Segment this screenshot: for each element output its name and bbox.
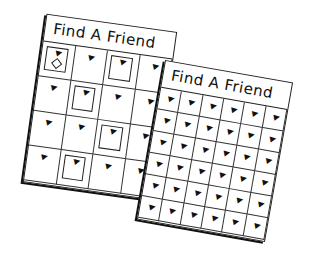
pushpin-icon: ▶ (237, 195, 245, 205)
pushpin-icon: ▶ (252, 108, 260, 118)
pushpin-icon: ▶ (177, 162, 185, 172)
pushpin-icon: ▶ (273, 112, 281, 122)
pushpin-icon: ▶ (78, 121, 86, 131)
pushpin-icon: ▶ (41, 151, 49, 161)
pushpin-icon: ▶ (269, 133, 277, 143)
pushpin-icon: ▶ (153, 180, 161, 190)
pushpin-icon: ▶ (258, 198, 266, 208)
grid-cell: ▶ (29, 111, 66, 150)
pushpin-icon: ▶ (265, 155, 273, 165)
pushpin-icon: ▶ (261, 177, 269, 187)
grid-cell: ▶ (61, 115, 98, 154)
pushpin-icon: ▶ (240, 173, 248, 183)
pushpin-icon: ▶ (223, 148, 231, 158)
pushpin-icon: ▶ (254, 220, 262, 230)
grid-cell: ▶ (56, 150, 93, 189)
sheet-right: Find A Friend ▶▶▶▶▶▶▶▶▶▶▶▶▶▶▶▶▶▶▶▶▶▶▶▶▶▶… (137, 60, 293, 242)
pushpin-icon: ▶ (105, 160, 113, 170)
pushpin-icon: ▶ (174, 184, 182, 194)
grid-cell: ▶ (71, 46, 108, 85)
pushpin-icon: ▶ (88, 52, 96, 62)
pushpin-icon: ▶ (156, 158, 164, 168)
pin-grid: ▶▶▶▶▶▶▶▶▶▶▶▶▶▶▶▶▶▶▶▶▶▶▶▶▶▶▶▶▶▶▶▶▶▶▶▶ (138, 88, 287, 240)
grid-cell: ▶ (24, 145, 61, 184)
pushpin-icon: ▶ (206, 122, 214, 132)
pushpin-icon: ▶ (198, 166, 206, 176)
pushpin-icon: ▶ (147, 96, 155, 106)
pushpin-icon: ▶ (191, 209, 199, 219)
pushpin-icon: ▶ (227, 126, 235, 136)
pushpin-icon: ▶ (181, 140, 189, 150)
pushpin-icon: ▶ (149, 202, 157, 212)
pushpin-icon: ▶ (248, 130, 256, 140)
pushpin-icon: ▶ (152, 61, 160, 71)
pushpin-icon: ▶ (244, 151, 252, 161)
grid-cell: ▶ (103, 51, 140, 90)
pushpin-icon: ▶ (212, 213, 220, 223)
grid-cell: ▶ (34, 76, 71, 115)
grid-cell: ▶ (66, 81, 103, 120)
pushpin-icon: ▶ (231, 104, 239, 114)
pushpin-icon: ▶ (83, 86, 91, 96)
pushpin-icon: ▶ (46, 117, 54, 127)
pushpin-icon: ▶ (202, 144, 210, 154)
pushpin-icon: ▶ (219, 169, 227, 179)
pushpin-icon: ▶ (115, 91, 123, 101)
pushpin-icon: ▶ (189, 97, 197, 107)
grid-cell: ▶ (88, 155, 125, 194)
pushpin-icon: ▶ (73, 156, 81, 166)
grid-cell: ▶ (98, 85, 135, 124)
pushpin-icon: ▶ (170, 205, 178, 215)
pushpin-icon: ▶ (210, 101, 218, 111)
pushpin-icon: ▶ (233, 216, 241, 226)
grid-cell: ▶ (39, 42, 76, 81)
grid-cell: ▶ (243, 215, 268, 240)
grid-cell: ▶ (93, 120, 130, 159)
pushpin-icon: ▶ (51, 82, 59, 92)
pushpin-icon: ▶ (195, 187, 203, 197)
pushpin-icon: ▶ (160, 137, 168, 147)
pushpin-icon: ▶ (142, 130, 150, 140)
pushpin-icon: ▶ (216, 191, 224, 201)
pushpin-icon: ▶ (185, 119, 193, 129)
pushpin-icon: ▶ (164, 115, 172, 125)
pushpin-icon: ▶ (168, 93, 176, 103)
